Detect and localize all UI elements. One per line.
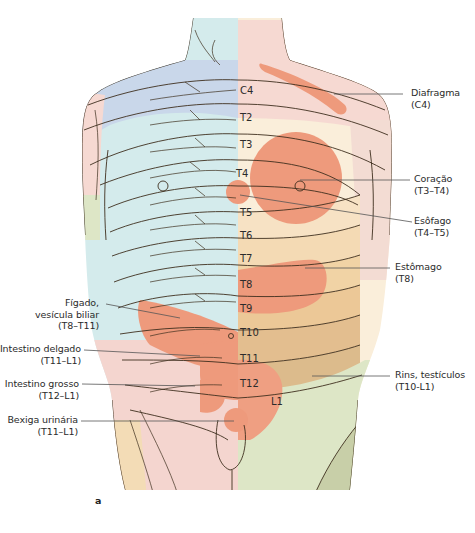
segment-t7: T7 bbox=[240, 253, 252, 264]
organ-name-line2: vesícula biliar bbox=[35, 309, 99, 321]
organ-name: Intestino delgado bbox=[0, 343, 81, 355]
organ-name: Rins, testículos bbox=[395, 369, 465, 381]
organ-name: Coração bbox=[414, 173, 452, 185]
organ-segments: (T3–T4) bbox=[414, 185, 452, 197]
label-esofago: Esôfago (T4–T5) bbox=[414, 215, 451, 238]
segment-t9: T9 bbox=[240, 303, 252, 314]
label-diafragma: Diafragma (C4) bbox=[411, 87, 460, 110]
label-intestino-grosso: Intestino grosso (T12–L1) bbox=[5, 378, 79, 401]
organ-name: Intestino grosso bbox=[5, 378, 79, 390]
organ-segments: (T12–L1) bbox=[5, 390, 79, 402]
segment-c4: C4 bbox=[240, 85, 253, 96]
organ-segments: (T8) bbox=[395, 273, 442, 285]
organ-segments: (T4–T5) bbox=[414, 227, 451, 239]
label-rins-testiculos: Rins, testículos (T10-L1) bbox=[395, 369, 465, 392]
panel-label: a bbox=[95, 495, 101, 506]
organ-name: Fígado, bbox=[35, 297, 99, 309]
label-intestino-delgado: Intestino delgado (T11–L1) bbox=[0, 343, 81, 366]
organ-segments: (T11–L1) bbox=[7, 426, 78, 438]
organ-segments: (C4) bbox=[411, 99, 460, 111]
segment-t11: T11 bbox=[240, 353, 259, 364]
segment-l1: L1 bbox=[271, 396, 283, 407]
segment-t12: T12 bbox=[240, 378, 259, 389]
label-coracao: Coração (T3–T4) bbox=[414, 173, 452, 196]
organ-segments: (T8–T11) bbox=[35, 320, 99, 332]
label-figado-vesicula: Fígado, vesícula biliar (T8–T11) bbox=[35, 297, 99, 332]
segment-t6: T6 bbox=[240, 230, 252, 241]
segment-t5: T5 bbox=[240, 207, 252, 218]
label-estomago: Estômago (T8) bbox=[395, 261, 442, 284]
segment-t8: T8 bbox=[240, 279, 252, 290]
organ-name: Esôfago bbox=[414, 215, 451, 227]
label-bexiga-urinaria: Bexiga urinária (T11–L1) bbox=[7, 414, 78, 437]
segment-t3: T3 bbox=[240, 139, 252, 150]
organ-segments: (T11–L1) bbox=[0, 355, 81, 367]
segment-t4: T4 bbox=[236, 168, 248, 179]
organ-name: Diafragma bbox=[411, 87, 460, 99]
organ-segments: (T10-L1) bbox=[395, 381, 465, 393]
segment-t10: T10 bbox=[240, 327, 259, 338]
organ-name: Estômago bbox=[395, 261, 442, 273]
segment-t2: T2 bbox=[240, 112, 252, 123]
organ-name: Bexiga urinária bbox=[7, 414, 78, 426]
